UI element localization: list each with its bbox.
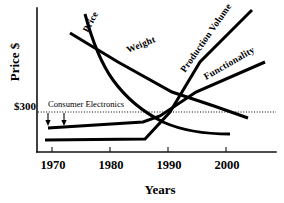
price-years-line-chart: Price $ $300 1970 1980 1990 2000 Years P… [0,0,284,203]
chart-axes [37,8,276,152]
series-label-price: Price [81,10,100,34]
x-tick-label-1980: 1980 [99,158,124,172]
y-tick-label-300: $300 [14,100,37,112]
y-axis-title: Price $ [7,42,22,81]
consumer-electronics-arrows [45,113,66,126]
x-axis-title: Years [144,182,175,197]
chart-container: Price $ $300 1970 1980 1990 2000 Years P… [0,0,284,203]
annotation-arrowhead-1973 [61,120,66,126]
x-tick-label-1990: 1990 [157,158,182,172]
x-tick-label-2000: 2000 [215,158,240,172]
series-line-functionality [48,62,265,128]
x-tick-label-1970: 1970 [41,158,66,172]
series-label-weight: Weight [125,34,157,55]
annotation-label-consumer-electronics: Consumer Electronics [48,99,125,109]
annotation-arrowhead-1970 [45,120,50,126]
